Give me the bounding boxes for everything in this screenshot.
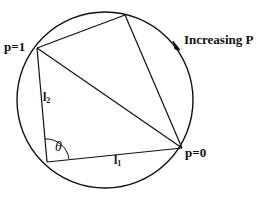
label-p-equals-1: p=1	[4, 40, 25, 53]
label-l2-subscript: 2	[46, 96, 50, 105]
label-p-equals-0: p=0	[185, 146, 206, 159]
label-l1-subscript: 1	[117, 159, 121, 168]
cyclic-quadrilateral-diagram	[0, 0, 267, 201]
label-l2: l2	[43, 91, 50, 105]
label-l1: l1	[114, 154, 121, 168]
label-increasing-p: Increasing P	[184, 33, 253, 46]
label-theta: θ	[55, 140, 62, 154]
edge-l2	[37, 48, 47, 162]
direction-arrow-icon	[173, 41, 180, 50]
